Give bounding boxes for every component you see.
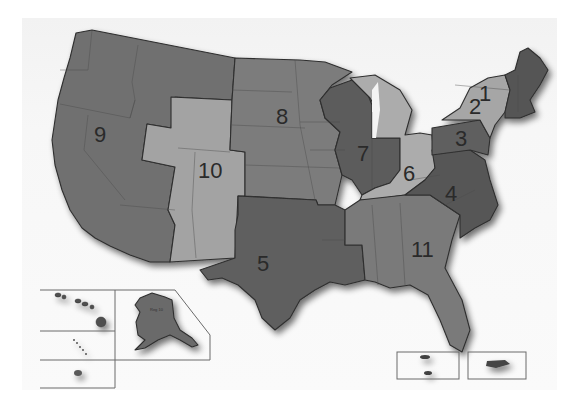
alaska[interactable] (135, 293, 198, 350)
region-8[interactable] (230, 58, 352, 205)
pacific-islands (73, 339, 87, 355)
alaska-region-label: Reg 10 (150, 307, 163, 312)
virgin-islands (420, 355, 432, 375)
region-label-5: 5 (257, 253, 269, 275)
region-label-10: 10 (198, 160, 222, 182)
puerto-rico (486, 360, 510, 368)
us-region-map: 1 2 3 4 5 6 7 8 9 10 11 Reg 10 (0, 0, 578, 409)
hawaii (55, 293, 106, 327)
region-label-7: 7 (357, 143, 369, 165)
region-1[interactable] (505, 48, 548, 118)
region-label-8: 8 (276, 106, 288, 128)
region-label-2: 2 (469, 96, 481, 118)
american-samoa (74, 370, 82, 376)
region-label-4: 4 (445, 183, 457, 205)
region-label-6: 6 (403, 163, 415, 185)
region-label-9: 9 (94, 124, 106, 146)
map-svg (0, 0, 578, 409)
region-label-11: 11 (411, 239, 434, 261)
region-label-3: 3 (455, 128, 467, 150)
